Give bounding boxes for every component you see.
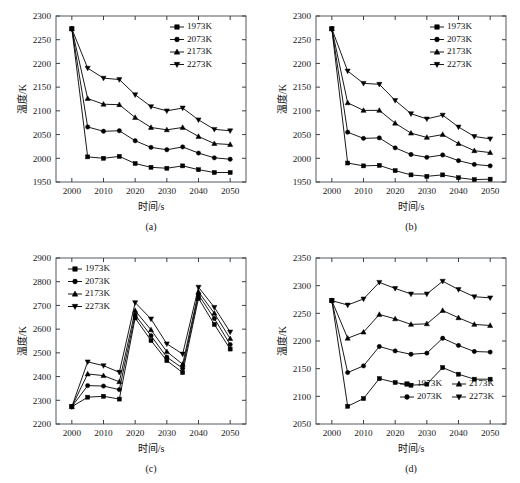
data-point (165, 166, 169, 170)
data-point (346, 370, 350, 374)
y-tick-label: 2350 (293, 253, 312, 263)
data-point (362, 397, 366, 401)
x-tick-label: 2010 (354, 428, 373, 438)
x-tick-label: 2040 (449, 186, 468, 196)
legend-marker-square-icon (73, 267, 77, 271)
legend-label: 2273K (187, 59, 212, 69)
x-tick-label: 2040 (189, 186, 208, 196)
legend-label: 2173K (469, 378, 494, 388)
subplot-a: 1950200020502100215022002250230020002010… (0, 0, 260, 241)
x-tick-label: 2020 (386, 428, 405, 438)
x-tick-label: 2050 (481, 428, 500, 438)
data-point (133, 162, 137, 166)
y-tick-label: 2200 (33, 419, 52, 429)
x-tick-label: 2050 (481, 186, 500, 196)
data-point (425, 351, 429, 355)
y-tick-label: 2200 (293, 59, 312, 69)
subplot-caption: (a) (145, 221, 156, 233)
x-tick-label: 2000 (323, 186, 342, 196)
y-tick-label: 2200 (33, 59, 52, 69)
subplot-c: 2200230024002500260027002800290020002010… (0, 242, 260, 483)
data-point (101, 384, 105, 388)
y-axis-label: 温度/K (16, 325, 28, 356)
y-tick-label: 2150 (33, 82, 52, 92)
data-point (117, 129, 121, 133)
x-tick-label: 2050 (221, 186, 240, 196)
x-tick-label: 2000 (63, 428, 82, 438)
data-point (393, 169, 397, 173)
data-point (196, 151, 200, 155)
subplot-caption: (c) (145, 463, 156, 475)
y-tick-label: 2050 (33, 130, 52, 140)
x-tick-label: 2030 (418, 428, 437, 438)
x-axis-label: 时间/s (398, 442, 425, 454)
data-point (86, 125, 90, 129)
plot-b: 1950200020502100215022002250230020002010… (260, 0, 520, 241)
data-point (425, 155, 429, 159)
data-point (346, 404, 350, 408)
plot-frame-a (56, 16, 246, 182)
y-tick-label: 2250 (33, 35, 52, 45)
legend-marker-circle-icon (175, 37, 180, 42)
y-tick-label: 2300 (33, 396, 52, 406)
data-point (441, 153, 445, 157)
data-point (228, 171, 232, 175)
data-point (181, 145, 185, 149)
data-point (181, 164, 185, 168)
data-point (472, 349, 476, 353)
data-point (117, 154, 121, 158)
y-tick-label: 2300 (33, 11, 52, 21)
data-point (362, 164, 366, 168)
data-point (101, 129, 105, 133)
y-tick-label: 2000 (293, 154, 312, 164)
legend-marker-square-icon (435, 25, 439, 29)
data-point (488, 164, 492, 168)
data-point (472, 162, 476, 166)
legend-label: 1973K (85, 263, 110, 273)
y-tick-label: 2100 (33, 106, 52, 116)
data-point (361, 136, 365, 140)
legend-label: 2173K (447, 46, 472, 56)
x-tick-label: 2020 (126, 428, 145, 438)
y-tick-label: 2900 (33, 253, 52, 263)
data-point (441, 366, 445, 370)
legend-marker-circle-icon (73, 279, 78, 284)
x-axis-label: 时间/s (138, 442, 165, 454)
legend-label: 2173K (85, 288, 110, 298)
data-point (86, 383, 90, 387)
legend-marker-square-icon (175, 25, 179, 29)
x-tick-label: 2010 (94, 186, 113, 196)
data-point (377, 163, 381, 167)
y-tick-label: 2200 (293, 336, 312, 346)
data-point (228, 342, 232, 346)
data-point (149, 165, 153, 169)
y-tick-label: 2400 (33, 372, 52, 382)
data-point (102, 156, 106, 160)
y-tick-label: 2100 (293, 106, 312, 116)
x-tick-label: 2000 (63, 186, 82, 196)
data-point (393, 349, 397, 353)
legend-label: 2273K (469, 391, 494, 401)
data-point (149, 339, 153, 343)
data-point (425, 174, 429, 178)
y-tick-label: 2150 (293, 364, 312, 374)
data-point (117, 387, 121, 391)
y-axis-label: 温度/K (16, 83, 28, 114)
x-tick-label: 2040 (449, 428, 468, 438)
data-point (377, 344, 381, 348)
data-point (86, 395, 90, 399)
data-point (457, 372, 461, 376)
data-point (377, 136, 381, 140)
data-point (393, 381, 397, 385)
x-axis-label: 时间/s (138, 200, 165, 212)
data-point (409, 352, 413, 356)
y-axis-label: 温度/K (276, 325, 288, 356)
y-tick-label: 2050 (293, 130, 312, 140)
subplot-b: 1950200020502100215022002250230020002010… (260, 0, 520, 241)
data-point (133, 139, 137, 143)
figure-canvas: 1950200020502100215022002250230020002010… (0, 0, 520, 483)
data-point (181, 371, 185, 375)
plot-c: 2200230024002500260027002800290020002010… (0, 242, 260, 483)
subplot-d: 2050210021502200225023002350200020102020… (260, 242, 520, 483)
y-tick-label: 2250 (293, 309, 312, 319)
